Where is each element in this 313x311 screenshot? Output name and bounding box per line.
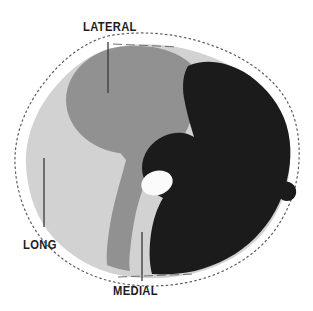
dark-protrusion — [278, 181, 296, 201]
label-lateral: LATERAL — [83, 19, 137, 34]
anatomy-figure: LATERAL LONG MEDIAL — [0, 0, 313, 311]
label-medial: MEDIAL — [113, 283, 158, 298]
anatomy-diagram — [0, 0, 313, 311]
label-long: LONG — [23, 237, 57, 252]
